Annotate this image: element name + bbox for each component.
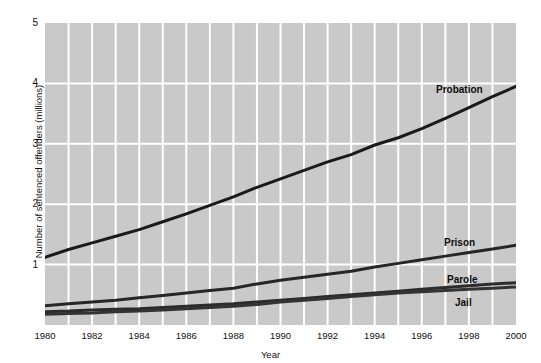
y-axis-title: Number of sentenced offenders (millions) xyxy=(33,57,44,287)
series-label-parole: Parole xyxy=(447,275,478,285)
y-tick-label: 3 xyxy=(8,139,38,149)
x-tick-label: 1982 xyxy=(70,331,114,341)
series-label-probation: Probation xyxy=(436,85,483,95)
x-tick-label: 1990 xyxy=(259,331,303,341)
y-tick-label: 2 xyxy=(8,199,38,209)
x-tick-label: 1986 xyxy=(164,331,208,341)
x-tick-label: 1988 xyxy=(211,331,255,341)
x-tick-label: 2000 xyxy=(494,331,538,341)
x-tick-label: 1994 xyxy=(353,331,397,341)
line-chart: Number of sentenced offenders (millions)… xyxy=(0,0,541,363)
y-tick-label: 4 xyxy=(8,78,38,88)
x-tick-label: 1998 xyxy=(447,331,491,341)
x-tick-label: 1992 xyxy=(306,331,350,341)
x-tick-label: 1980 xyxy=(23,331,67,341)
x-axis-title: Year xyxy=(0,349,541,360)
plot-svg xyxy=(45,23,516,325)
x-tick-label: 1984 xyxy=(117,331,161,341)
series-label-jail: Jail xyxy=(455,298,472,308)
series-label-prison: Prison xyxy=(444,238,475,248)
y-tick-label: 5 xyxy=(8,18,38,28)
plot-area xyxy=(45,23,516,325)
y-tick-label: 1 xyxy=(8,260,38,270)
x-tick-label: 1996 xyxy=(400,331,444,341)
